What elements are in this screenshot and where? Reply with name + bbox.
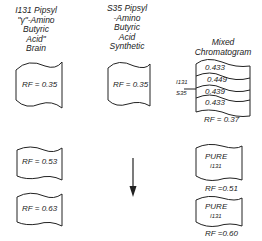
mixed-rf-value: RF = 0.37	[204, 115, 239, 124]
band-value: 0.433	[205, 63, 225, 72]
rf-value: RF = 0.35	[22, 80, 57, 89]
rf-value: RF = 0.35	[113, 80, 148, 89]
column-heading-mixed: MixedChromatogram	[188, 38, 258, 57]
band-value: 0.439	[205, 87, 225, 96]
isotope-label: I131	[176, 79, 188, 85]
down-arrow-head	[130, 186, 137, 197]
pure-rf: RF =0.51	[205, 184, 238, 193]
pure-rf: RF =0.60	[205, 229, 238, 238]
band-value: 0.433	[205, 98, 225, 107]
isotope-label: S35	[176, 90, 187, 96]
pure-label: PURE	[205, 152, 227, 161]
pure-isotope: I131	[210, 163, 222, 169]
rf-value: RF = 0.63	[22, 204, 57, 213]
rf-value: RF = 0.53	[22, 157, 57, 166]
pure-label: PURE	[205, 202, 227, 211]
spot-outline	[196, 196, 242, 226]
pure-isotope: I131	[210, 213, 222, 219]
column-heading-brain: I131 Pipsyl"γ"-AminoButyricAcid"Brain	[6, 6, 66, 54]
band-value: 0.449	[207, 75, 227, 84]
column-heading-synthetic: S35 Pipsyl-AminoButyricAcidSynthetic	[97, 4, 157, 52]
